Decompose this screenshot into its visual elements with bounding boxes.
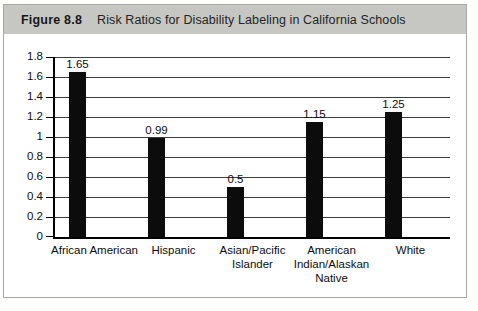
y-axis-tick xyxy=(46,97,53,98)
bar-asian-pacific-islander xyxy=(227,187,244,237)
figure-header: Figure 8.8 Risk Ratios for Disability La… xyxy=(4,5,466,34)
y-axis-tick xyxy=(46,77,53,78)
y-axis-tick xyxy=(46,117,53,118)
bar-value-label: 1.15 xyxy=(285,108,345,120)
y-axis-tick-label: 0.2 xyxy=(3,210,43,223)
y-axis-tick-label: 0.8 xyxy=(3,150,43,163)
y-axis-tick-label: 0.6 xyxy=(3,170,43,183)
y-axis-tick xyxy=(46,217,53,218)
y-axis-tick-label: 1.4 xyxy=(3,90,43,103)
y-axis-tick xyxy=(46,197,53,198)
figure-title: Risk Ratios for Disability Labeling in C… xyxy=(97,13,406,27)
bar-value-label: 1.65 xyxy=(48,58,108,70)
x-axis-category-label: White xyxy=(357,243,465,257)
y-axis-tick-label: 0 xyxy=(3,230,43,243)
bar-chart-plot-area: 00.20.40.60.811.21.41.61.81.65African Am… xyxy=(53,57,450,239)
bar-hispanic xyxy=(148,138,165,237)
bar-value-label: 0.99 xyxy=(127,124,187,136)
bar-value-label: 0.5 xyxy=(206,173,266,185)
y-axis-tick-label: 1.2 xyxy=(3,110,43,123)
figure-number: Figure 8.8 xyxy=(21,13,82,27)
y-axis-tick xyxy=(46,177,53,178)
gridline xyxy=(55,77,450,78)
y-axis-tick xyxy=(46,157,53,158)
y-axis-tick-label: 1 xyxy=(3,130,43,143)
page: Figure 8.8 Risk Ratios for Disability La… xyxy=(0,0,478,311)
bar-white xyxy=(385,112,402,237)
y-axis-tick-label: 1.6 xyxy=(3,70,43,83)
bar-value-label: 1.25 xyxy=(364,98,424,110)
figure-box: Figure 8.8 Risk Ratios for Disability La… xyxy=(3,4,467,298)
y-axis-tick-label: 1.8 xyxy=(3,50,43,63)
y-axis-tick xyxy=(46,236,53,237)
y-axis-tick-label: 0.4 xyxy=(3,190,43,203)
bar-african-american xyxy=(69,72,86,237)
gridline xyxy=(55,57,450,58)
bar-american-indian-alaskan-native xyxy=(306,122,323,237)
y-axis-tick xyxy=(46,137,53,138)
